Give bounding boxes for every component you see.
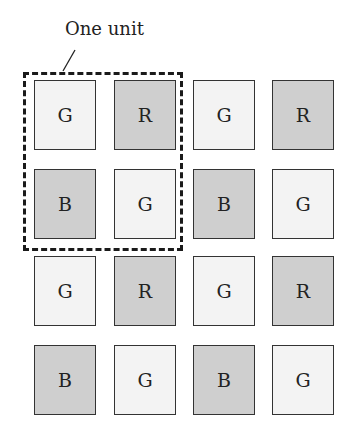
cell-g: G <box>114 345 176 415</box>
cell-b: B <box>193 345 255 415</box>
cell-r: R <box>272 80 334 150</box>
cell-r: R <box>114 80 176 150</box>
cell-g: G <box>272 345 334 415</box>
cell-g: G <box>193 256 255 326</box>
cell-r: R <box>114 256 176 326</box>
cell-g: G <box>34 80 96 150</box>
cell-g: G <box>193 80 255 150</box>
cell-b: B <box>34 169 96 239</box>
cell-g: G <box>34 256 96 326</box>
cell-r: R <box>272 256 334 326</box>
cell-b: B <box>193 169 255 239</box>
cell-g: G <box>114 169 176 239</box>
cell-g: G <box>272 169 334 239</box>
cell-b: B <box>34 345 96 415</box>
